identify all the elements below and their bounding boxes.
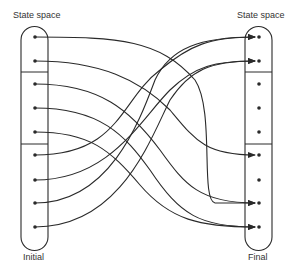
final-state-dots xyxy=(257,35,261,229)
transition-arrow xyxy=(35,61,255,227)
transition-arrow xyxy=(35,37,255,203)
transition-arrow xyxy=(35,61,255,180)
transition-arrow xyxy=(35,37,255,203)
transition-curves xyxy=(35,37,255,227)
transition-arrow xyxy=(35,84,255,203)
transition-arrow xyxy=(35,108,255,227)
state-space-mapping-diagram: State space State space Initial Final xyxy=(0,0,291,270)
transition-arrow xyxy=(35,61,255,155)
transition-arrow xyxy=(35,37,255,155)
transition-arrow xyxy=(35,132,255,227)
diagram-canvas xyxy=(0,0,291,270)
